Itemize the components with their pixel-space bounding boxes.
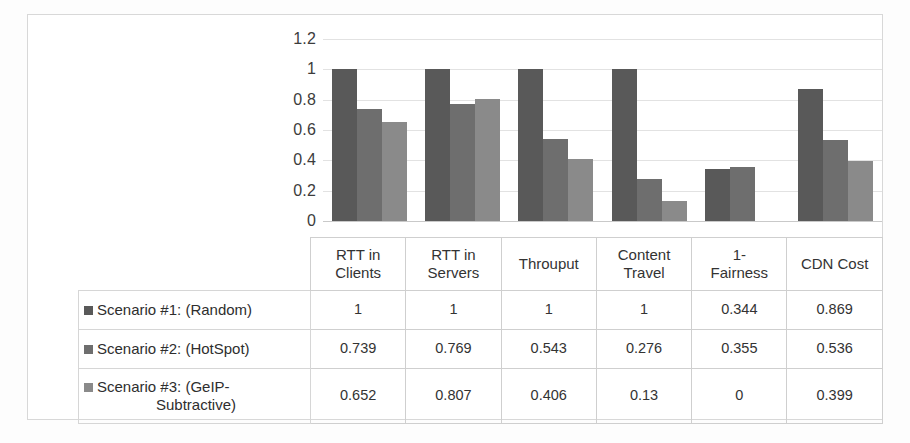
category-header-1: RTT inServers — [406, 238, 501, 291]
category-header-line2: Travel — [599, 264, 689, 282]
data-cell: 0.344 — [692, 291, 787, 330]
table-row: Scenario #3: (GeIP-Subtractive)0.6520.80… — [79, 369, 883, 424]
y-axis-tick-6: 1.2 — [293, 31, 316, 47]
bar — [475, 99, 500, 221]
bars-layer — [323, 39, 882, 221]
category-header-line1: CDN Cost — [789, 255, 879, 273]
y-axis-tick-4: 0.8 — [293, 92, 316, 108]
chart-outer-frame: 00.20.40.60.811.2 RTT inClientsRTT inSer… — [27, 14, 883, 420]
bar — [357, 109, 382, 221]
gridline-0 — [323, 221, 882, 222]
chart-page: 00.20.40.60.811.2 RTT inClientsRTT inSer… — [0, 0, 910, 443]
bar — [518, 69, 543, 221]
bar — [543, 139, 568, 221]
bar — [662, 201, 687, 221]
data-table: RTT inClientsRTT inServersThrouputConten… — [78, 237, 883, 424]
bar — [450, 104, 475, 221]
data-cell: 0.355 — [692, 330, 787, 369]
bar-group — [696, 39, 789, 221]
data-cell: 0.276 — [596, 330, 691, 369]
plot-wrapper: 00.20.40.60.811.2 — [260, 39, 882, 237]
legend-label: Scenario #2: (HotSpot) — [97, 340, 250, 357]
bar — [382, 122, 407, 221]
category-header-line2: Servers — [408, 264, 498, 282]
category-header-2: Throuput — [501, 238, 596, 291]
y-axis-tick-3: 0.6 — [293, 122, 316, 138]
bar-group — [789, 39, 882, 221]
category-header-line1: Throuput — [504, 255, 594, 273]
data-cell: 0.739 — [311, 330, 406, 369]
table-row: Scenario #2: (HotSpot)0.7390.7690.5430.2… — [79, 330, 883, 369]
bar — [612, 69, 637, 221]
data-cell: 0.652 — [311, 369, 406, 424]
legend-swatch-icon — [84, 345, 93, 354]
category-header-line2: Clients — [313, 264, 403, 282]
plot-area — [323, 39, 882, 221]
legend-item-2: Scenario #2: (HotSpot) — [79, 330, 311, 369]
data-cell: 0 — [692, 369, 787, 424]
bar — [848, 161, 873, 222]
category-header-0: RTT inClients — [311, 238, 406, 291]
bar — [425, 69, 450, 221]
y-axis: 00.20.40.60.811.2 — [260, 39, 322, 221]
bar — [637, 179, 662, 221]
data-cell: 0.543 — [501, 330, 596, 369]
legend-item-3: Scenario #3: (GeIP-Subtractive) — [79, 369, 311, 424]
table-header-row: RTT inClientsRTT inServersThrouputConten… — [79, 238, 883, 291]
legend-item-1: Scenario #1: (Random) — [79, 291, 311, 330]
data-cell: 0.406 — [501, 369, 596, 424]
data-cell: 0.13 — [596, 369, 691, 424]
table-body: RTT inClientsRTT inServersThrouputConten… — [79, 238, 883, 424]
data-cell: 0.536 — [787, 330, 882, 369]
bar — [332, 69, 357, 221]
data-cell: 1 — [406, 291, 501, 330]
y-axis-tick-1: 0.2 — [293, 183, 316, 199]
data-cell: 1 — [596, 291, 691, 330]
legend-swatch-icon — [84, 306, 93, 315]
category-header-line1: Content — [599, 246, 689, 264]
category-header-line1: RTT in — [313, 246, 403, 264]
legend-swatch-icon — [84, 383, 93, 392]
data-cell: 1 — [501, 291, 596, 330]
category-header-line2: Fairness — [694, 264, 784, 282]
data-cell: 1 — [311, 291, 406, 330]
y-axis-tick-5: 1 — [307, 61, 316, 77]
category-header-3: ContentTravel — [596, 238, 691, 291]
legend-label-line2: Subtractive) — [84, 396, 308, 414]
y-axis-tick-0: 0 — [307, 213, 316, 229]
legend-label: Scenario #1: (Random) — [97, 301, 252, 318]
bar — [730, 167, 755, 221]
bar — [823, 140, 848, 221]
y-axis-tick-2: 0.4 — [293, 152, 316, 168]
bar-group — [323, 39, 416, 221]
data-cell: 0.769 — [406, 330, 501, 369]
bar-group — [416, 39, 509, 221]
category-header-line1: RTT in — [408, 246, 498, 264]
data-cell: 0.807 — [406, 369, 501, 424]
bar — [798, 89, 823, 221]
table-row: Scenario #1: (Random)11110.3440.869 — [79, 291, 883, 330]
category-header-4: 1-Fairness — [692, 238, 787, 291]
bar — [705, 169, 730, 221]
category-header-line1: 1- — [694, 246, 784, 264]
category-header-5: CDN Cost — [787, 238, 882, 291]
bar-group — [509, 39, 602, 221]
data-cell: 0.399 — [787, 369, 882, 424]
legend-label: Scenario #3: (GeIP- — [97, 378, 230, 395]
table-corner-cell — [79, 238, 311, 291]
data-cell: 0.869 — [787, 291, 882, 330]
bar-group — [603, 39, 696, 221]
bar — [568, 159, 593, 221]
